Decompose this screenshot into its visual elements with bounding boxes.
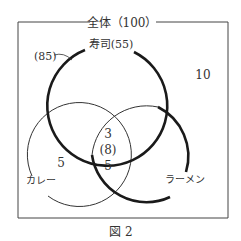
ramen-label: ラーメン bbox=[165, 174, 205, 185]
figure-caption: 図 2 bbox=[109, 225, 132, 239]
venn-diagram: 全体（100） (85) 寿司(55) カレー ラーメン 10 5 3 (8) … bbox=[0, 0, 241, 241]
union-annotation: (85) bbox=[34, 50, 57, 63]
ramen-circle-thick-arc bbox=[158, 107, 188, 172]
curry-ramen-only-count: 5 bbox=[104, 159, 112, 173]
venn-figure: 全体（100） (85) 寿司(55) カレー ラーメン 10 5 3 (8) … bbox=[0, 0, 241, 241]
outside-count: 10 bbox=[195, 68, 210, 82]
curry-ramen-total: (8) bbox=[100, 143, 117, 157]
curry-only-count: 5 bbox=[57, 156, 65, 170]
all-three-count: 3 bbox=[104, 127, 112, 141]
curry-label: カレー bbox=[26, 175, 56, 186]
sushi-label: 寿司(55) bbox=[89, 37, 134, 51]
universe-label: 全体（100） bbox=[87, 15, 158, 30]
